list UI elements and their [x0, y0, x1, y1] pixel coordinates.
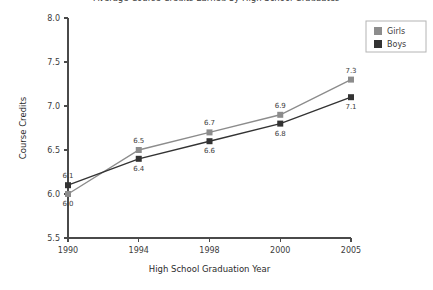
- legend-swatch-girls: [374, 27, 382, 35]
- data-point-label: 7.3: [345, 67, 356, 75]
- data-point-marker: [207, 129, 213, 135]
- data-point-label: 6.0: [62, 200, 73, 208]
- chart-legend[interactable]: GirlsBoys: [366, 21, 426, 52]
- data-point-marker: [207, 138, 213, 144]
- x-axis-title: High School Graduation Year: [149, 264, 271, 274]
- series-lines: [68, 80, 351, 194]
- data-point-label: 6.1: [62, 172, 73, 180]
- data-point-label: 6.6: [204, 147, 216, 155]
- series-markers: [65, 77, 354, 197]
- x-axis-tick-labels: 19901994199820002005: [58, 246, 361, 255]
- y-tick-label: 6.5: [47, 146, 60, 155]
- legend-swatch-boys: [374, 40, 382, 48]
- x-tick-label: 1990: [58, 246, 78, 255]
- legend-label-boys[interactable]: Boys: [387, 40, 406, 49]
- series-line-girls: [68, 80, 351, 194]
- data-point-marker: [136, 156, 142, 162]
- data-point-label: 6.7: [204, 119, 215, 127]
- x-tick-label: 2005: [341, 246, 361, 255]
- y-tick-label: 5.5: [47, 234, 60, 243]
- data-point-marker: [136, 147, 142, 153]
- legend-label-girls[interactable]: Girls: [387, 27, 405, 36]
- data-point-marker: [277, 121, 283, 127]
- data-point-marker: [277, 112, 283, 118]
- chart-container: Average Course Credits Earned by High Sc…: [0, 0, 433, 290]
- data-point-marker: [348, 77, 354, 83]
- data-point-label: 6.9: [275, 102, 286, 110]
- data-point-label: 7.1: [345, 103, 356, 111]
- x-tick-label: 2000: [270, 246, 290, 255]
- x-axis-ticks: [68, 238, 351, 242]
- data-point-marker: [65, 182, 71, 188]
- data-point-marker: [65, 191, 71, 197]
- x-tick-label: 1998: [199, 246, 219, 255]
- y-tick-label: 7.5: [47, 58, 60, 67]
- data-point-label: 6.8: [275, 130, 286, 138]
- line-chart-plot: 5.56.06.57.07.58.0 19901994199820002005 …: [0, 0, 433, 290]
- x-tick-label: 1994: [129, 246, 149, 255]
- y-tick-label: 6.0: [47, 190, 60, 199]
- data-point-label: 6.5: [133, 137, 144, 145]
- data-point-marker: [348, 94, 354, 100]
- y-tick-label: 7.0: [47, 102, 60, 111]
- y-tick-label: 8.0: [47, 14, 60, 23]
- y-axis-tick-labels: 5.56.06.57.07.58.0: [47, 14, 60, 243]
- data-point-labels: 6.06.56.76.97.36.16.46.66.87.1: [62, 67, 356, 208]
- data-point-label: 6.4: [133, 165, 145, 173]
- y-axis-title: Course Credits: [18, 96, 28, 159]
